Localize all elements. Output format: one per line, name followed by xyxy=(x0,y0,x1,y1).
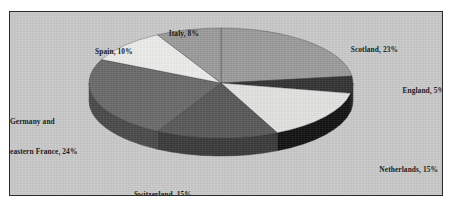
pie-label-italy: Italy, 8% xyxy=(138,19,218,49)
chart-plot-frame: Italy, 8% Spain, 10% Germany and eastern… xyxy=(9,11,443,196)
pie-chart-figure: Italy, 8% Spain, 10% Germany and eastern… xyxy=(0,0,455,208)
pie-label-england: England, 5% xyxy=(355,76,443,106)
pie-label-germany-line2: eastern France, 24% xyxy=(10,147,108,157)
pie-label-switzerland: Switzerland, 15% xyxy=(102,180,212,196)
pie-label-germany-eastern-france: Germany and eastern France, 24% xyxy=(10,97,108,177)
pie-label-spain: Spain, 10% xyxy=(68,37,148,67)
pie-label-germany-line1: Germany and xyxy=(10,117,108,127)
pie-label-netherlands: Netherlands, 15% xyxy=(328,155,438,185)
pie-label-scotland: Scotland, 23% xyxy=(298,35,398,65)
